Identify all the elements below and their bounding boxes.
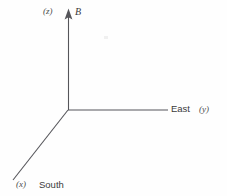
b-vector-label: B <box>75 7 81 17</box>
south-axis-line <box>13 110 68 180</box>
x-coordinate-label: (x) <box>16 180 26 189</box>
east-axis-label: East <box>171 104 190 114</box>
y-coordinate-label: (y) <box>199 105 209 114</box>
z-coordinate-label: (z) <box>43 7 53 16</box>
axes-drawing <box>0 0 227 196</box>
south-axis-label: South <box>39 180 64 190</box>
axes-figure: (z) B East (y) (x) South <box>0 0 227 196</box>
scan-artifact-speck <box>104 36 108 39</box>
